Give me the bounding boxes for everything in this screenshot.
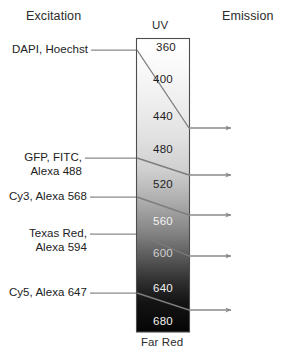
far-red-band-label: Far Red	[141, 336, 183, 348]
fluorophore-label-dapi: DAPI, Hoechst	[0, 43, 88, 55]
wavelength-600: 600	[143, 247, 183, 259]
fluorophore-label-gfp-line1: GFP, FITC,	[24, 151, 82, 163]
fluorophore-label-dapi-line1: DAPI, Hoechst	[12, 43, 88, 55]
wavelength-400: 400	[143, 73, 183, 85]
emission-column-header: Emission	[222, 9, 274, 23]
fluorophore-label-texasred-line2: Alexa 594	[0, 241, 87, 255]
fluorophore-label-cy3: Cy3, Alexa 568	[0, 190, 87, 202]
fluorophore-label-gfp: GFP, FITC, Alexa 488	[0, 151, 82, 178]
wavelength-480: 480	[143, 143, 183, 155]
excitation-column-header: Excitation	[26, 9, 81, 23]
wavelength-680: 680	[143, 315, 183, 327]
wavelength-640: 640	[143, 282, 183, 294]
fluorophore-label-texasred-line1: Texas Red,	[29, 227, 87, 239]
fluorophore-label-cy5: Cy5, Alexa 647	[0, 286, 87, 298]
wavelength-520: 520	[143, 178, 183, 190]
wavelength-440: 440	[143, 110, 183, 122]
uv-band-label: UV	[152, 19, 168, 31]
fluorophore-label-texasred: Texas Red, Alexa 594	[0, 227, 87, 254]
fluorophore-label-gfp-line2: Alexa 488	[0, 165, 82, 179]
wavelength-360: 360	[146, 41, 186, 53]
fluorophore-label-cy5-line1: Cy5, Alexa 647	[9, 286, 87, 298]
wavelength-560: 560	[143, 215, 183, 227]
fluorophore-label-cy3-line1: Cy3, Alexa 568	[9, 190, 87, 202]
